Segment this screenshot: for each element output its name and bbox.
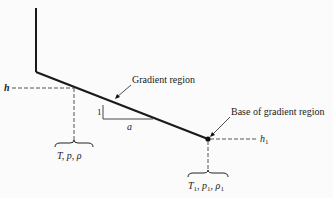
base-leader — [212, 117, 230, 135]
right-brace — [188, 170, 228, 177]
state-right-label: T1, p1, ρ1 — [188, 180, 224, 193]
gradient-region-label: Gradient region — [132, 74, 195, 85]
base-of-gradient-region-label: Base of gradient region — [231, 106, 325, 117]
state-left-label: T, p, ρ — [57, 150, 82, 161]
left-brace — [55, 140, 93, 147]
h1-label: h1 — [260, 133, 269, 146]
slope-run-label: a — [127, 121, 132, 132]
slope-rise-label: 1 — [97, 107, 102, 117]
gradient-region-leader — [117, 85, 131, 97]
temperature-gradient-diagram: Gradient region Base of gradient region … — [0, 0, 333, 198]
h-label: h — [4, 82, 10, 93]
base-point — [205, 136, 210, 141]
